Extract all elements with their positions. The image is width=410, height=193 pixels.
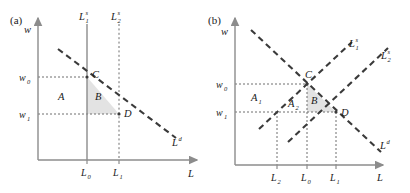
svg-text:1: 1 (120, 173, 123, 180)
svg-text:w: w (19, 109, 26, 120)
svg-text:L: L (348, 38, 355, 49)
panel-b-ytick-w1: w 1 (216, 107, 227, 120)
svg-text:L: L (80, 167, 87, 178)
point-C-marker (305, 82, 308, 85)
svg-text:L: L (110, 11, 117, 22)
panel-a-xtick-L1: L 1 (112, 167, 123, 180)
point-D-marker (117, 112, 120, 115)
panel-b-axis-x-label: L (376, 172, 383, 183)
panel-a-point-C-label: C (92, 69, 100, 80)
svg-text:1: 1 (86, 17, 89, 24)
svg-text:1: 1 (356, 44, 359, 51)
panel-b-xtick-L1: L 1 (329, 172, 340, 185)
svg-text:d: d (179, 135, 183, 142)
svg-text:0: 0 (308, 178, 312, 185)
svg-text:s: s (118, 9, 121, 16)
svg-text:L: L (78, 11, 85, 22)
svg-text:s: s (86, 9, 89, 16)
panel-b-xtick-L0: L 0 (300, 172, 312, 185)
svg-text:d: d (387, 138, 391, 145)
panel-a-curve-label-supply-2: L 2 s (110, 9, 122, 24)
panel-a-curve-label-demand: L d (171, 135, 183, 148)
svg-text:L: L (380, 50, 387, 61)
panel-b: (b) w L L 1 s L 2 s L d w 0 w 1 (208, 14, 392, 185)
panel-a-ytick-w0: w 0 (19, 72, 31, 85)
panel-a-axis-y-label: w (24, 24, 31, 35)
panel-b-curve-label-supply-1: L 1 s (348, 36, 359, 51)
panel-a-curve-label-supply-1: L 1 s (78, 9, 89, 24)
panel-b-point-D-label: D (340, 107, 349, 118)
point-D-marker (334, 110, 337, 113)
panel-a-xtick-L0: L 0 (80, 167, 92, 180)
panel-b-curve-label-demand: L d (379, 138, 391, 151)
svg-text:1: 1 (337, 178, 340, 185)
svg-text:L: L (171, 137, 178, 148)
svg-text:0: 0 (27, 78, 31, 85)
svg-text:A: A (287, 98, 295, 109)
svg-text:w: w (216, 79, 223, 90)
svg-text:w: w (19, 72, 26, 83)
svg-text:s: s (356, 36, 359, 43)
panel-a-ytick-w1: w 1 (19, 109, 30, 122)
figure-canvas: (a) w L L 1 s L 2 s L d w 0 w 1 (0, 0, 410, 193)
svg-text:s: s (388, 48, 391, 55)
svg-text:A: A (250, 92, 258, 103)
svg-text:L: L (270, 172, 277, 183)
svg-text:1: 1 (27, 115, 30, 122)
point-C-marker (85, 75, 88, 78)
panel-b-axis-y-label: w (221, 26, 228, 37)
svg-text:0: 0 (88, 173, 92, 180)
svg-text:1: 1 (259, 98, 262, 105)
panel-b-label: (b) (208, 14, 221, 27)
panel-b-point-C-label: C (305, 69, 313, 80)
panel-b-ytick-w0: w 0 (216, 79, 228, 92)
svg-text:1: 1 (224, 113, 227, 120)
svg-text:L: L (112, 167, 119, 178)
svg-text:L: L (329, 172, 336, 183)
svg-text:L: L (379, 140, 386, 151)
panel-b-region-B-label: B (311, 95, 318, 106)
panel-b-xtick-L2: L 2 (270, 172, 282, 185)
economics-labour-market-figure: (a) w L L 1 s L 2 s L d w 0 w 1 (0, 0, 410, 193)
svg-text:2: 2 (278, 178, 282, 185)
svg-text:0: 0 (224, 85, 228, 92)
panel-a-region-B-label: B (95, 91, 102, 102)
svg-text:2: 2 (388, 56, 392, 63)
panel-a-region-A-label: A (57, 91, 65, 102)
panel-b-curve-label-supply-2: L 2 s (380, 48, 392, 63)
panel-a: (a) w L L 1 s L 2 s L d w 0 w 1 (10, 9, 197, 180)
svg-text:2: 2 (118, 17, 122, 24)
svg-text:w: w (216, 107, 223, 118)
panel-a-label: (a) (10, 14, 23, 27)
panel-a-point-D-label: D (123, 108, 132, 119)
svg-text:L: L (300, 172, 307, 183)
panel-a-axis-x-label: L (187, 168, 194, 179)
